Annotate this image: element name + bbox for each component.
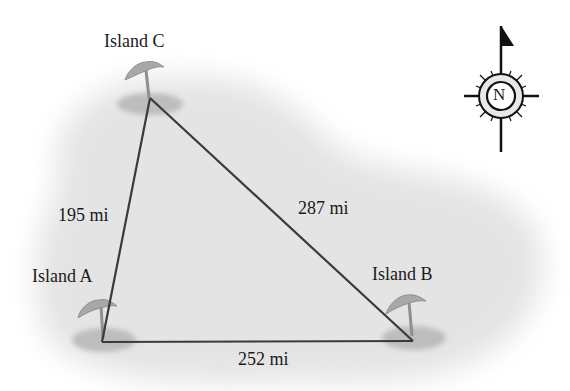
edge-c-b-distance: 287 mi [298, 199, 349, 217]
edge-a-b [102, 341, 413, 342]
island-a-label: Island A [32, 267, 93, 285]
edge-a-b-distance: 252 mi [238, 350, 289, 368]
island-b-shadow [382, 326, 446, 350]
island-c-label: Island C [104, 32, 165, 50]
island-b-label: Island B [372, 265, 433, 283]
edge-a-c-distance: 195 mi [58, 206, 109, 224]
compass-north-letter: N [493, 86, 505, 103]
island-map-diagram [0, 0, 570, 391]
